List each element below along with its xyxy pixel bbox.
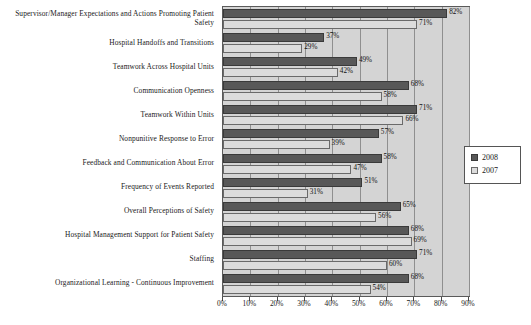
bar-2007-9	[223, 237, 412, 246]
bar-2007-10	[223, 261, 387, 270]
bar-2007-4	[223, 116, 403, 125]
bar-value-label: 71%	[419, 104, 432, 113]
bar-value-label: 29%	[304, 43, 317, 52]
bar-value-label: 57%	[381, 128, 394, 137]
category-label: Supervisor/Manager Expectations and Acti…	[0, 9, 214, 27]
bar-2008-9	[223, 226, 409, 235]
legend-swatch-2007	[471, 167, 478, 174]
bar-group: 71%60%	[223, 248, 469, 272]
x-tick-label: 10%	[236, 299, 262, 308]
category-axis-labels: Supervisor/Manager Expectations and Acti…	[0, 6, 218, 297]
bar-value-label: 71%	[419, 19, 432, 28]
bar-2007-7	[223, 189, 308, 198]
category-label: Hospital Handoffs and Transitions	[0, 38, 214, 47]
bar-chart: Supervisor/Manager Expectations and Acti…	[0, 0, 531, 325]
bar-group: 49%42%	[223, 55, 469, 79]
bar-group: 57%39%	[223, 127, 469, 151]
bar-2007-5	[223, 140, 330, 149]
bar-2008-6	[223, 154, 382, 163]
category-label: Communication Openness	[0, 86, 214, 95]
bar-2007-1	[223, 44, 302, 53]
x-tick-label: 20%	[264, 299, 290, 308]
plot-area: 82%71%37%29%49%42%68%58%71%66%57%39%58%4…	[222, 6, 470, 297]
bar-value-label: 39%	[332, 139, 345, 148]
bar-value-label: 49%	[359, 56, 372, 65]
bar-group: 82%71%	[223, 7, 469, 31]
bar-group: 51%31%	[223, 176, 469, 200]
bar-2008-4	[223, 105, 417, 114]
bar-value-label: 65%	[403, 201, 416, 210]
legend-swatch-2008	[471, 154, 478, 161]
legend-item-2008: 2008	[471, 151, 520, 164]
bar-value-label: 68%	[411, 80, 424, 89]
legend-label-2007: 2007	[482, 166, 498, 175]
x-tick-label: 60%	[373, 299, 399, 308]
bar-value-label: 82%	[449, 8, 462, 17]
bar-value-label: 71%	[419, 249, 432, 258]
bar-value-label: 51%	[364, 177, 377, 186]
x-tick-label: 50%	[346, 299, 372, 308]
bar-2007-2	[223, 68, 338, 77]
x-tick-label: 70%	[400, 299, 426, 308]
bar-group: 58%47%	[223, 152, 469, 176]
bar-value-label: 37%	[326, 32, 339, 41]
category-label: Hospital Management Support for Patient …	[0, 230, 214, 239]
category-label: Teamwork Within Units	[0, 110, 214, 119]
bar-group: 37%29%	[223, 31, 469, 55]
bar-2008-2	[223, 57, 357, 66]
bar-2007-11	[223, 285, 371, 294]
bar-group: 71%66%	[223, 103, 469, 127]
category-label: Nonpunitive Response to Error	[0, 134, 214, 143]
bar-2008-11	[223, 274, 409, 283]
bar-group: 68%54%	[223, 272, 469, 296]
category-label: Feedback and Communication About Error	[0, 158, 214, 167]
bar-2008-10	[223, 250, 417, 259]
bar-group: 68%58%	[223, 79, 469, 103]
bar-group: 65%56%	[223, 200, 469, 224]
bar-value-label: 58%	[384, 153, 397, 162]
bar-value-label: 56%	[378, 212, 391, 221]
bar-value-label: 54%	[373, 284, 386, 293]
category-label: Frequency of Events Reported	[0, 182, 214, 191]
bar-2008-7	[223, 178, 362, 187]
bar-2007-0	[223, 20, 417, 29]
bar-value-label: 68%	[411, 225, 424, 234]
legend-label-2008: 2008	[482, 153, 498, 162]
x-tick-label: 40%	[318, 299, 344, 308]
bar-value-label: 60%	[389, 260, 402, 269]
bar-2007-3	[223, 92, 382, 101]
bar-value-label: 31%	[310, 188, 323, 197]
x-tick-label: 0%	[209, 299, 235, 308]
bar-value-label: 42%	[340, 67, 353, 76]
category-label: Organizational Learning - Continuous Imp…	[0, 278, 214, 287]
bar-2008-0	[223, 9, 447, 18]
legend-item-2007: 2007	[471, 164, 520, 177]
bar-value-label: 47%	[353, 164, 366, 173]
bar-2008-1	[223, 33, 324, 42]
bar-group: 68%69%	[223, 224, 469, 248]
bar-value-label: 66%	[405, 115, 418, 124]
bar-value-label: 58%	[384, 91, 397, 100]
category-label: Overall Perceptions of Safety	[0, 206, 214, 215]
bar-2007-6	[223, 165, 351, 174]
x-tick-label: 30%	[291, 299, 317, 308]
x-tick-label: 90%	[455, 299, 481, 308]
bar-2008-3	[223, 81, 409, 90]
x-tick-label: 80%	[428, 299, 454, 308]
bar-2008-8	[223, 202, 401, 211]
category-label: Staffing	[0, 254, 214, 263]
chart-legend: 2008 2007	[464, 146, 521, 184]
bar-value-label: 69%	[414, 236, 427, 245]
bar-2007-8	[223, 213, 376, 222]
bar-value-label: 68%	[411, 273, 424, 282]
category-label: Teamwork Across Hospital Units	[0, 62, 214, 71]
bar-2008-5	[223, 129, 379, 138]
x-axis-tick-labels: 0%10%20%30%40%50%60%70%80%90%	[0, 299, 531, 313]
